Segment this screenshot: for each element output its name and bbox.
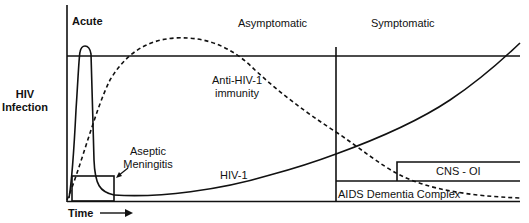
- immunity-label-line1: Anti-HIV-1: [202, 74, 272, 87]
- aseptic-label-line2: Meningitis: [118, 158, 178, 171]
- immunity-label: Anti-HIV-1 immunity: [202, 74, 272, 100]
- arrow-right-icon: [125, 209, 133, 217]
- phase-label-symptomatic: Symptomatic: [371, 17, 435, 30]
- y-axis-label-line2: Infection: [2, 101, 48, 114]
- acute-hiv-spike: [69, 46, 114, 198]
- aseptic-meningitis-label: Aseptic Meningitis: [118, 145, 178, 171]
- cns-oi-label: CNS - OI: [436, 165, 481, 178]
- hiv-1-label: HIV-1: [220, 169, 248, 182]
- immunity-label-line2: immunity: [202, 87, 272, 100]
- y-axis-label: HIV Infection: [2, 88, 48, 114]
- x-axis-label: Time: [68, 207, 93, 220]
- aseptic-meningitis-box: [72, 176, 114, 201]
- adc-label: AIDS Dementia Complex: [338, 188, 460, 201]
- aseptic-label-line1: Aseptic: [118, 145, 178, 158]
- phase-label-acute: Acute: [72, 15, 103, 28]
- phase-label-asymptomatic: Asymptomatic: [238, 17, 307, 30]
- y-axis-label-line1: HIV: [2, 88, 48, 101]
